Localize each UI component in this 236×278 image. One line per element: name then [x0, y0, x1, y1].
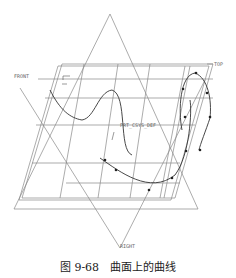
model-view: FRONT TOP RIGHT PRT_CSYS_DEF	[0, 0, 236, 278]
front-label: FRONT	[14, 73, 29, 79]
top-label: TOP	[214, 61, 223, 67]
right-label: RIGHT	[120, 243, 135, 249]
curve-3	[180, 73, 210, 150]
curve-2	[100, 100, 191, 183]
csys-label: PRT_CSYS_DEF	[120, 122, 156, 129]
triangle-plane	[14, 14, 198, 209]
figure-caption: 图 9-68 曲面上的曲线	[0, 258, 236, 274]
